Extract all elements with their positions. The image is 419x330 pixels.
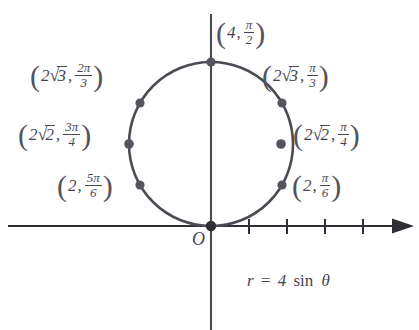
point-marker-pi-2	[206, 57, 215, 66]
point-marker-3pi-4	[124, 139, 134, 149]
point-label-3pi-4: ( 2 √ 2 , 3π 4 )	[18, 120, 91, 149]
equation-lhs: r	[247, 271, 254, 290]
plot-canvas	[0, 0, 419, 330]
comma-separator: ,	[55, 126, 63, 143]
comma-separator: ,	[77, 177, 85, 194]
right-paren: )	[81, 123, 91, 146]
angle-fraction: 3π 4	[63, 120, 80, 149]
polar-graph-figure: ( 4 , π 2 ) ( 2 √ 3 , π 3	[0, 0, 419, 330]
point-marker-2pi-3	[135, 98, 144, 107]
left-paren: (	[216, 21, 226, 44]
angle-fraction: π 2	[244, 18, 255, 47]
theta-variable: θ	[318, 271, 330, 290]
point-marker-5pi-6	[135, 180, 144, 189]
right-paren: )	[103, 174, 113, 197]
angle-fraction: π 6	[320, 171, 331, 200]
comma-separator: ,	[67, 67, 75, 84]
equation-coefficient: 4	[278, 271, 287, 290]
radius-value: 2 √ 3	[273, 66, 299, 85]
right-paren: )	[319, 64, 329, 87]
point-label-5pi-6: ( 2 , 5π 6 )	[57, 171, 113, 200]
left-paren: (	[18, 123, 28, 146]
equals-sign: =	[258, 271, 274, 290]
curve-equation-label: r = 4 sin θ	[247, 272, 330, 289]
point-label-2pi-3: ( 2 √ 3 , 2π 3 )	[30, 61, 103, 90]
sine-function-name: sin	[290, 271, 313, 290]
x-axis-arrowhead	[392, 219, 414, 234]
point-label-pi-3: ( 2 √ 3 , π 3 )	[262, 61, 329, 90]
angle-fraction: π 4	[338, 120, 349, 149]
radius-value: 2 √ 2	[29, 125, 55, 144]
right-paren: )	[93, 64, 103, 87]
left-paren: (	[292, 174, 302, 197]
point-label-pi-2: ( 4 , π 2 )	[216, 18, 265, 47]
comma-separator: ,	[299, 67, 307, 84]
radius-value: 2	[303, 177, 312, 194]
origin-label: O	[192, 230, 205, 248]
left-paren: (	[293, 123, 303, 146]
radius-value: 2 √ 3	[41, 66, 67, 85]
angle-fraction: 5π 6	[85, 171, 102, 200]
left-paren: (	[57, 174, 67, 197]
comma-separator: ,	[236, 24, 244, 41]
right-paren: )	[350, 123, 360, 146]
right-paren: )	[255, 21, 265, 44]
point-label-pi-4: ( 2 √ 2 , π 4 )	[293, 120, 360, 149]
radius-value: 4	[227, 24, 236, 41]
comma-separator: ,	[330, 126, 338, 143]
radius-value: 2 √ 2	[304, 125, 330, 144]
left-paren: (	[30, 64, 40, 87]
left-paren: (	[262, 64, 272, 87]
right-paren: )	[331, 174, 341, 197]
angle-fraction: π 3	[307, 61, 318, 90]
point-marker-pi-6	[277, 180, 286, 189]
comma-separator: ,	[312, 177, 320, 194]
point-marker-pi-3	[277, 98, 286, 107]
angle-fraction: 2π 3	[75, 61, 92, 90]
radius-value: 2	[68, 177, 77, 194]
point-marker-origin	[206, 221, 216, 231]
point-label-pi-6: ( 2 , π 6 )	[292, 171, 341, 200]
point-marker-pi-4	[276, 139, 286, 149]
